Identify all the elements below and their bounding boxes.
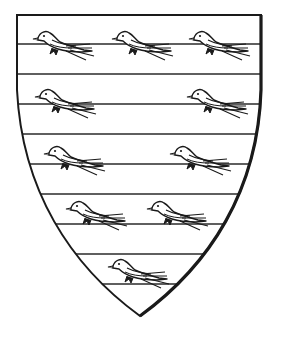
heraldic-shield [0,0,281,340]
